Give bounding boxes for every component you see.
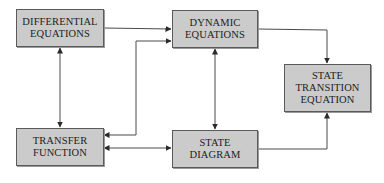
node-label-line: EQUATIONS — [185, 29, 245, 41]
edge-dynamic-to-ste — [258, 29, 327, 63]
node-label-line: EQUATIONS — [22, 28, 97, 40]
node-label-line: EQUATION — [296, 94, 360, 106]
node-state-diagram: STATE DIAGRAM — [172, 130, 258, 168]
edge-transfer-dynamic — [104, 41, 171, 135]
node-label-line: TRANSITION — [296, 82, 360, 94]
edge-statediagram-to-ste — [258, 113, 327, 149]
node-label-line: DIFFERENTIAL — [22, 16, 97, 28]
node-state-transition-equation: STATE TRANSITION EQUATION — [284, 64, 371, 112]
node-label-line: FUNCTION — [33, 147, 87, 159]
node-label-line: STATE — [296, 70, 360, 82]
node-label-line: DYNAMIC — [185, 17, 245, 29]
node-label-line: DIAGRAM — [190, 149, 241, 161]
edge-differential-to-dynamic — [104, 28, 171, 29]
block-diagram: DIFFERENTIAL EQUATIONS DYNAMIC EQUATIONS… — [0, 0, 384, 183]
node-label-line: STATE — [190, 137, 241, 149]
node-dynamic-equations: DYNAMIC EQUATIONS — [172, 10, 258, 48]
node-differential-equations: DIFFERENTIAL EQUATIONS — [16, 9, 104, 47]
node-label-line: TRANSFER — [33, 135, 87, 147]
node-transfer-function: TRANSFER FUNCTION — [16, 128, 104, 166]
